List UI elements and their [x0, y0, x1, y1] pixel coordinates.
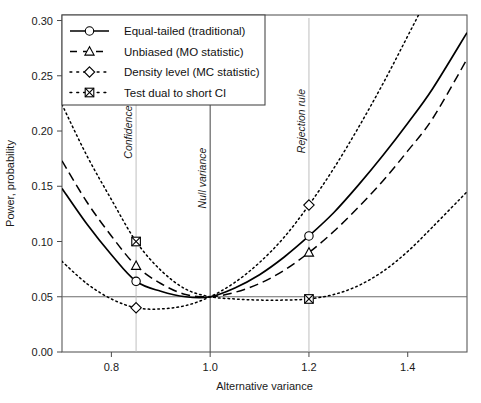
annotation-rejection-rule: Rejection rule: [295, 89, 307, 153]
legend-label: Equal-tailed (traditional): [124, 25, 246, 37]
legend-item-test-dual-to-short-ci[interactable]: Test dual to short CI: [70, 87, 226, 99]
x-tick-label-1.4: 1.4: [400, 361, 415, 373]
y-tick-label-0.20: 0.20: [32, 125, 53, 137]
legend-label: Test dual to short CI: [124, 87, 226, 99]
data-point-marker-triangle: [131, 261, 140, 269]
power-curves-chart: 0.81.01.21.40.000.050.100.150.200.250.30…: [0, 0, 481, 403]
legend-label: Density level (MC statistic): [124, 66, 260, 78]
legend-marker-square-x: [85, 88, 94, 97]
y-tick-label-0.25: 0.25: [32, 70, 53, 82]
chart-figure: 0.81.01.21.40.000.050.100.150.200.250.30…: [0, 0, 481, 403]
x-tick-label-1.2: 1.2: [301, 361, 316, 373]
data-point-marker-diamond: [131, 303, 141, 313]
x-tick-label-0.8: 0.8: [104, 361, 119, 373]
data-point-marker-square-x: [132, 237, 141, 246]
y-tick-label-0.00: 0.00: [32, 346, 53, 358]
data-point-marker-circle: [132, 277, 140, 285]
data-point-marker-diamond: [304, 200, 314, 210]
data-point-marker-triangle: [304, 248, 313, 256]
data-point-marker-circle: [305, 232, 313, 240]
legend-marker-circle: [85, 27, 93, 35]
y-tick-label-0.05: 0.05: [32, 291, 53, 303]
data-point-marker-square-x: [305, 295, 314, 304]
y-tick-label-0.10: 0.10: [32, 236, 53, 248]
y-tick-label-0.30: 0.30: [32, 15, 53, 27]
x-tick-label-1.0: 1.0: [203, 361, 218, 373]
y-axis-title: Power, probability: [4, 140, 16, 227]
y-tick-label-0.15: 0.15: [32, 180, 53, 192]
x-axis-title: Alternative variance: [216, 380, 313, 392]
annotation-null-variance: Null variance: [196, 148, 208, 209]
legend-label: Unbiased (MO statistic): [124, 46, 244, 58]
